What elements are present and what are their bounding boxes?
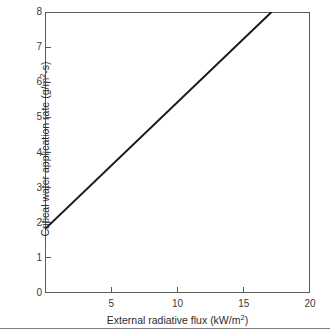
axis-title-tail: ) — [245, 314, 249, 326]
x-axis-tick-label: 20 — [297, 299, 323, 309]
plot-canvas — [45, 12, 310, 293]
data-series-group — [45, 12, 272, 229]
axis-title-tail: -s) — [39, 61, 51, 73]
axis-title-exponent: 2 — [38, 74, 47, 78]
axis-title-text: Critical water application rate (g/m — [39, 78, 51, 237]
x-axis-tick-label: 10 — [165, 299, 191, 309]
x-axis-tick-labels: 5101520 — [0, 299, 330, 313]
x-axis-title: External radiative flux (kW/m2) — [45, 314, 310, 326]
y-axis-tick-label: 8 — [28, 7, 42, 17]
x-axis-ticks — [45, 287, 310, 293]
y-axis-tick-label: 0 — [28, 288, 42, 298]
axis-title-text: External radiative flux (kW/m — [107, 314, 241, 326]
footer-rule — [0, 328, 330, 329]
x-axis-tick-label: 15 — [231, 299, 257, 309]
y-axis-title: Critical water application rate (g/m2-s) — [39, 19, 51, 279]
figure: 012345678 5101520 External radiative flu… — [0, 0, 330, 336]
x-axis-tick-label: 5 — [98, 299, 124, 309]
